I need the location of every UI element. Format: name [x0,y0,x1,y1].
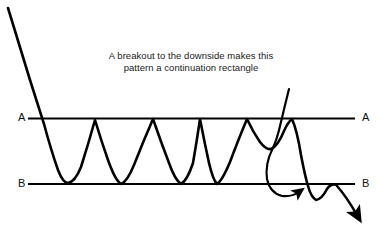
label-resistance-left: A [18,111,25,123]
annotation-block: A breakout to the downside makes this pa… [61,50,321,73]
chart-background [0,0,381,234]
label-support-left: B [18,177,25,189]
annotation-line-1: A breakout to the downside makes this [61,50,321,62]
pattern-diagram-svg [0,0,381,234]
label-support-right: B [362,177,369,189]
annotation-line-2: pattern a continuation rectangle [61,62,321,74]
label-resistance-right: A [362,111,369,123]
chart-figure: A breakout to the downside makes this pa… [0,0,381,234]
